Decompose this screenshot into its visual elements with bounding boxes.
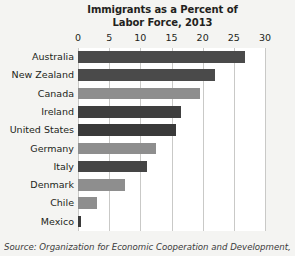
x-tick-label-0: 0 — [66, 32, 90, 43]
category-label-australia: Australia — [32, 48, 74, 66]
bar-row: Germany — [78, 140, 265, 158]
bar-australia — [78, 51, 245, 63]
category-label-italy: Italy — [53, 158, 74, 176]
bar-row: United States — [78, 121, 265, 139]
chart-title-line-2: Labor Force, 2013 — [55, 17, 270, 30]
bar-row: Mexico — [78, 213, 265, 231]
category-label-germany: Germany — [30, 140, 74, 158]
x-tick-label-20: 20 — [191, 32, 215, 43]
chart-title-line-1: Immigrants as a Percent of — [55, 4, 270, 17]
bar-row: Denmark — [78, 176, 265, 194]
bar-row: Chile — [78, 194, 265, 212]
chart-title: Immigrants as a Percent of Labor Force, … — [55, 4, 270, 29]
category-label-united-states: United States — [10, 121, 74, 139]
category-label-ireland: Ireland — [41, 103, 74, 121]
gridline-30 — [265, 48, 266, 231]
bar-new-zealand — [78, 69, 215, 81]
chart-figure: Immigrants as a Percent of Labor Force, … — [0, 0, 295, 256]
bar-row: Ireland — [78, 103, 265, 121]
bar-row: Canada — [78, 85, 265, 103]
bar-row: Italy — [78, 158, 265, 176]
x-tick-label-25: 25 — [222, 32, 246, 43]
category-label-new-zealand: New Zealand — [12, 66, 74, 84]
bar-germany — [78, 143, 156, 155]
bar-chile — [78, 197, 97, 209]
bar-ireland — [78, 106, 181, 118]
category-label-canada: Canada — [38, 85, 74, 103]
x-tick-label-15: 15 — [160, 32, 184, 43]
source-caption: Source: Organization for Economic Cooper… — [4, 242, 295, 253]
bar-canada — [78, 88, 200, 100]
bar-mexico — [78, 216, 81, 228]
x-tick-label-5: 5 — [97, 32, 121, 43]
category-label-denmark: Denmark — [30, 176, 74, 194]
bar-row: Australia — [78, 48, 265, 66]
bar-denmark — [78, 179, 125, 191]
x-tick-label-10: 10 — [128, 32, 152, 43]
category-label-chile: Chile — [50, 194, 74, 212]
x-tick-label-30: 30 — [253, 32, 277, 43]
category-label-mexico: Mexico — [41, 213, 74, 231]
bar-italy — [78, 161, 147, 173]
bar-row: New Zealand — [78, 66, 265, 84]
bar-united-states — [78, 124, 176, 136]
